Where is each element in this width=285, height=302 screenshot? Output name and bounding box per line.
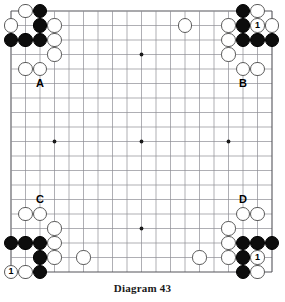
- board-label-c: C: [32, 194, 48, 205]
- go-board-container: 111 ABCD: [0, 0, 285, 278]
- board-label-a: A: [32, 78, 48, 89]
- board-label-b: B: [235, 78, 251, 89]
- go-diagram-figure: 111 ABCD Diagram 43: [0, 0, 285, 302]
- board-label-d: D: [235, 194, 251, 205]
- go-labels-layer: ABCD: [0, 0, 285, 278]
- diagram-caption: Diagram 43: [0, 282, 285, 294]
